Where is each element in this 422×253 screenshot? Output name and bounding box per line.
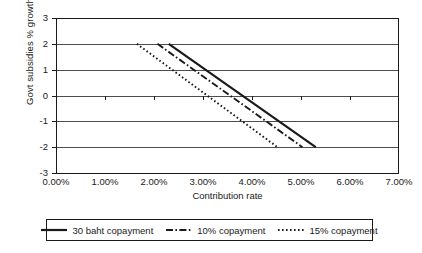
chart-figure: Govt subsidies % growth 3210-1-2-3 0.00%…	[0, 0, 422, 253]
y-axis-tick-mark	[52, 44, 56, 45]
x-axis-tick-labels: 0.00%1.00%2.00%3.00%4.00%5.00%6.00%7.00%	[56, 176, 399, 190]
legend-label: 30 baht copayment	[72, 225, 153, 236]
chart-legend: 30 baht copayment10% copayment15% copaym…	[46, 219, 373, 241]
y-axis-tick-mark	[52, 18, 56, 19]
legend-line-swatch	[41, 226, 67, 234]
y-axis-tick-label: -1	[40, 116, 48, 126]
y-axis-tick-label: 1	[43, 65, 48, 75]
y-axis-tick-labels: 3210-1-2-3	[22, 12, 52, 174]
y-axis-tick-mark	[52, 96, 56, 97]
x-axis-tick-label: 0.00%	[43, 176, 70, 187]
x-axis-tick-label: 4.00%	[239, 176, 266, 187]
gridline	[56, 173, 399, 174]
x-axis-tick-mark	[350, 96, 351, 100]
x-axis-tick-label: 3.00%	[190, 176, 217, 187]
y-axis-tick-label: 2	[43, 39, 48, 49]
series-line	[169, 44, 316, 147]
x-axis-tick-mark	[105, 96, 106, 100]
y-axis-tick-label: -2	[40, 142, 48, 152]
legend-label: 15% copayment	[309, 225, 377, 236]
y-axis-tick-mark	[52, 147, 56, 148]
y-axis-tick-mark	[52, 173, 56, 174]
legend-line-swatch	[166, 226, 192, 234]
legend-line-swatch	[278, 226, 304, 234]
legend-entry: 10% copayment	[166, 225, 265, 236]
x-axis-tick-mark	[252, 96, 253, 100]
x-axis-tick-mark	[301, 96, 302, 100]
series-layer	[56, 18, 399, 173]
x-axis-label: Contribution rate	[56, 190, 399, 201]
y-axis-tick-label: 0	[43, 91, 48, 101]
y-axis-tick-mark	[52, 70, 56, 71]
plot-area: Govt subsidies % growth 3210-1-2-3 0.00%…	[0, 0, 422, 200]
legend-entry: 30 baht copayment	[41, 225, 153, 236]
y-axis-tick-mark	[52, 121, 56, 122]
series-line	[137, 44, 278, 147]
axes-frame	[56, 18, 399, 173]
legend-entry: 15% copayment	[278, 225, 377, 236]
legend-label: 10% copayment	[197, 225, 265, 236]
x-axis-tick-mark	[154, 96, 155, 100]
x-axis-tick-label: 1.00%	[92, 176, 119, 187]
series-line	[157, 44, 302, 147]
x-axis-tick-label: 2.00%	[141, 176, 168, 187]
x-axis-tick-label: 6.00%	[337, 176, 364, 187]
x-axis-tick-label: 7.00%	[386, 176, 413, 187]
x-axis-tick-label: 5.00%	[288, 176, 315, 187]
x-axis-tick-mark	[203, 96, 204, 100]
y-axis-tick-label: 3	[43, 13, 48, 23]
